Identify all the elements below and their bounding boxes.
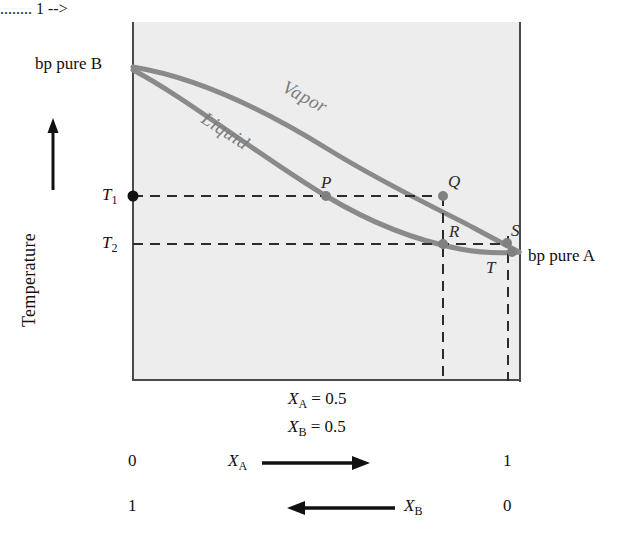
- phase-diagram-figure: bp pure B bp pure A Vapor Liquid P Q R S…: [0, 0, 642, 542]
- y-tick-T2-subscript: 2: [111, 241, 117, 255]
- xa-axis-symbol-subscript: A: [238, 459, 247, 473]
- composition-note-xa-value: = 0.5: [311, 389, 346, 408]
- y-axis-title: Temperature: [20, 200, 38, 360]
- xa-axis-symbol-letter: X: [228, 451, 238, 470]
- xb-axis-symbol: XB: [404, 497, 422, 517]
- composition-note-xa: XA = 0.5: [288, 390, 346, 410]
- y-tick-label-T2: T2: [102, 234, 117, 254]
- xb-scale-left-value: 1: [128, 497, 137, 514]
- plot-area: [132, 22, 521, 381]
- xb-scale-right-value: 0: [503, 497, 512, 514]
- xa-scale-left-value: 0: [128, 452, 137, 469]
- point-label-S: S: [511, 221, 520, 241]
- point-label-T: T: [486, 258, 495, 278]
- point-label-R: R: [449, 222, 459, 242]
- composition-note-xb: XB = 0.5: [288, 418, 346, 438]
- point-label-Q: Q: [448, 172, 460, 192]
- composition-note-xa-subscript: A: [298, 397, 307, 411]
- composition-note-xb-value: = 0.5: [311, 417, 346, 436]
- y-tick-T1-subscript: 1: [111, 193, 117, 207]
- xb-arrow-left-icon: [287, 501, 395, 515]
- y-tick-label-T1: T1: [102, 186, 117, 206]
- composition-note-xb-subscript: B: [298, 425, 306, 439]
- plot-right-border: [519, 22, 521, 382]
- point-label-P: P: [321, 173, 331, 193]
- bp-pure-a-label: bp pure A: [528, 247, 595, 264]
- xb-axis-symbol-subscript: B: [414, 504, 422, 518]
- bp-pure-b-label: bp pure B: [35, 55, 102, 72]
- xa-scale-right-value: 1: [503, 452, 512, 469]
- composition-note-xa-symbol: X: [288, 389, 298, 408]
- composition-note-xb-symbol: X: [288, 417, 298, 436]
- xa-axis-symbol: XA: [228, 452, 247, 472]
- y-axis-arrow-icon: [48, 118, 59, 190]
- xa-arrow-right-icon: [262, 456, 370, 470]
- xb-axis-symbol-letter: X: [404, 496, 414, 515]
